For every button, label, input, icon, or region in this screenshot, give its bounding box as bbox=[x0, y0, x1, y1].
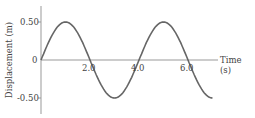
x-tick-label: 6.0 bbox=[180, 63, 194, 73]
x-tick-label: 4.0 bbox=[131, 63, 145, 73]
displacement-time-chart: 0.50 0 -0.50 2.0 4.0 6.0 Time (s) Displa… bbox=[0, 0, 255, 118]
y-tick-label: -0.50 bbox=[17, 93, 39, 103]
y-tick-label: 0 bbox=[32, 55, 37, 65]
x-axis-label: Time (s) bbox=[220, 55, 255, 75]
y-tick-label: 0.50 bbox=[20, 17, 39, 27]
y-axis-label: Displacement (m) bbox=[4, 20, 14, 100]
x-tick-label: 2.0 bbox=[82, 63, 96, 73]
